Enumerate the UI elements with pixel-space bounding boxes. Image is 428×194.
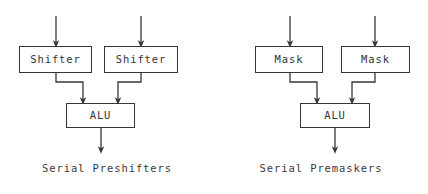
node-shifter-left[interactable]: Shifter <box>19 46 92 73</box>
edge-mask-right-to-alu <box>352 73 375 101</box>
node-mask-right[interactable]: Mask <box>341 46 410 73</box>
node-mask-left-label: Mask <box>275 54 304 65</box>
caption-serial-premaskers: Serial Premaskers <box>214 162 428 174</box>
node-alu-right[interactable]: ALU <box>300 103 370 128</box>
node-alu-left[interactable]: ALU <box>66 103 135 128</box>
figure-root: Shifter Shifter ALU Serial Preshifters M <box>0 0 428 194</box>
caption-serial-preshifters: Serial Preshifters <box>0 162 214 174</box>
node-alu-left-label: ALU <box>90 110 112 121</box>
node-alu-right-label: ALU <box>324 110 346 121</box>
node-shifter-right[interactable]: Shifter <box>104 46 178 73</box>
node-shifter-right-label: Shifter <box>116 54 167 65</box>
edge-mask-left-to-alu <box>290 73 317 101</box>
node-shifter-left-label: Shifter <box>30 54 81 65</box>
edge-shifter-left-to-alu <box>56 73 83 101</box>
node-mask-left[interactable]: Mask <box>255 46 323 73</box>
diagram-serial-premaskers: Mask Mask ALU Serial Premaskers <box>214 0 428 194</box>
edge-shifter-right-to-alu <box>118 73 141 101</box>
diagram-serial-preshifters: Shifter Shifter ALU Serial Preshifters <box>0 0 214 194</box>
node-mask-right-label: Mask <box>361 54 390 65</box>
